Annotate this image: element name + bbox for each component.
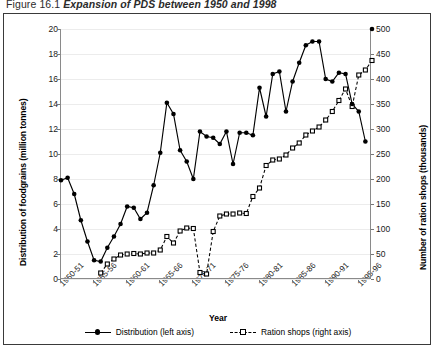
distribution-point <box>297 60 302 65</box>
ration-shops-point <box>271 158 275 162</box>
distribution-point <box>178 148 183 153</box>
ration-shops-point <box>138 252 142 256</box>
legend-item-ration-shops: Ration shops (right axis) <box>230 327 351 337</box>
ration-shops-point <box>99 271 103 275</box>
y-axis-right-tick: 250 <box>376 149 390 159</box>
ration-shops-point <box>198 271 202 275</box>
ration-shops-point <box>310 129 314 133</box>
ration-shops-point <box>224 212 228 216</box>
ration-shops-point <box>152 251 156 255</box>
y-axis-left-title: Distribution of foodgrains (million tonn… <box>18 98 28 266</box>
distribution-point <box>323 77 328 82</box>
figure-number: Figure 16.1 <box>6 0 60 10</box>
distribution-markers <box>59 27 375 264</box>
distribution-point <box>204 134 209 139</box>
distribution-point <box>65 175 70 180</box>
distribution-point <box>98 259 103 264</box>
distribution-point <box>125 204 130 209</box>
ration-shops-point <box>125 252 129 256</box>
y-axis-right-tick: 450 <box>376 49 390 59</box>
distribution-point <box>112 234 117 239</box>
ration-shops-point <box>330 110 334 114</box>
ration-shops-point <box>185 226 189 230</box>
ration-shops-point <box>357 73 361 77</box>
y-axis-right-tick: 50 <box>376 249 385 259</box>
ration-shops-point <box>337 99 341 103</box>
ration-shops-point <box>238 211 242 215</box>
ration-shops-point <box>264 164 268 168</box>
distribution-point <box>304 43 309 48</box>
distribution-point <box>284 109 289 114</box>
distribution-point <box>343 72 348 77</box>
distribution-point <box>184 159 189 164</box>
ration-shops-point <box>317 125 321 129</box>
distribution-point <box>277 69 282 74</box>
distribution-point <box>330 79 335 84</box>
ration-shops-point <box>244 212 248 216</box>
legend-label-distribution: Distribution (left axis) <box>116 327 194 337</box>
figure-caption: Figure 16.1 Expansion of PDS between 195… <box>6 0 277 10</box>
distribution-point <box>171 112 176 117</box>
distribution-point <box>85 239 90 244</box>
legend-marker-ration-shops <box>230 328 256 337</box>
y-axis-right-tick: 100 <box>376 224 390 234</box>
legend-label-ration-shops: Ration shops (right axis) <box>261 327 351 337</box>
distribution-point <box>317 39 322 44</box>
ration-shops-point <box>344 87 348 91</box>
ration-shops-point <box>145 251 149 255</box>
y-axis-right-title: Number of ration shops (thousands) <box>418 125 428 270</box>
distribution-line <box>61 42 365 262</box>
ration-shops-line <box>101 61 372 275</box>
distribution-point <box>72 192 77 197</box>
distribution-point <box>370 27 375 32</box>
ration-shops-point <box>105 262 109 266</box>
ration-shops-point <box>284 153 288 157</box>
distribution-point <box>79 218 84 223</box>
y-axis-right-tick: 150 <box>376 199 390 209</box>
distribution-point <box>145 210 150 215</box>
distribution-point <box>224 129 229 134</box>
distribution-point <box>257 85 262 90</box>
y-axis-right-tick: 400 <box>376 74 390 84</box>
distribution-point <box>211 135 216 140</box>
distribution-point <box>237 130 242 135</box>
distribution-point <box>105 245 110 250</box>
ration-shops-point <box>178 229 182 233</box>
distribution-point <box>158 150 163 155</box>
distribution-point <box>270 72 275 77</box>
chart-legend: Distribution (left axis) Ration shops (r… <box>4 327 432 337</box>
plot-area <box>60 29 371 279</box>
gridline <box>61 279 370 280</box>
distribution-point <box>363 139 368 144</box>
distribution-point <box>59 178 64 183</box>
ration-shops-point <box>231 212 235 216</box>
figure-title: Expansion of PDS between 1950 and 1998 <box>63 0 276 10</box>
ration-shops-point <box>297 141 301 145</box>
ration-shops-point <box>191 227 195 231</box>
ration-shops-point <box>304 133 308 137</box>
ration-shops-point <box>251 195 255 199</box>
ration-shops-markers <box>99 59 374 277</box>
distribution-point <box>350 102 355 107</box>
ration-shops-point <box>119 253 123 257</box>
distribution-point <box>264 114 269 119</box>
legend-item-distribution: Distribution (left axis) <box>85 327 194 337</box>
ration-shops-point <box>277 157 281 161</box>
figure-box: Distribution of foodgrains (million tonn… <box>3 13 431 345</box>
ration-shops-point <box>218 214 222 218</box>
distribution-point <box>251 133 256 138</box>
ration-shops-point <box>171 241 175 245</box>
ration-shops-point <box>158 248 162 252</box>
ration-shops-point <box>112 257 116 261</box>
ration-shops-point <box>291 146 295 150</box>
distribution-point <box>151 183 156 188</box>
ration-shops-point <box>258 186 262 190</box>
distribution-point <box>231 162 236 167</box>
distribution-point <box>218 142 223 147</box>
x-axis-title: Year <box>4 313 432 323</box>
distribution-point <box>310 39 315 44</box>
legend-marker-distribution <box>85 328 111 337</box>
y-axis-right-tick: 0 <box>376 274 381 284</box>
distribution-point <box>118 222 123 227</box>
ration-shops-point <box>211 230 215 234</box>
